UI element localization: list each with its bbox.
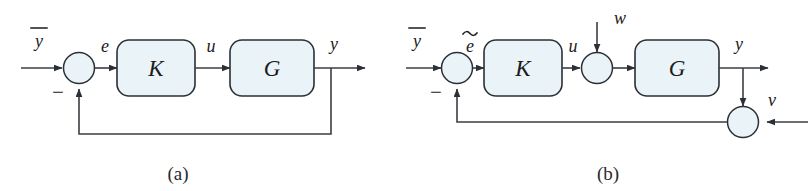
signal-label-output-b: y (733, 34, 743, 54)
figure-root: K G y e u y − (a) (0, 0, 812, 191)
caption-panel-b: (b) (597, 163, 619, 185)
signal-label-reference-b: y (411, 31, 421, 51)
junction-noise-sum-b (728, 107, 759, 138)
block-controller-label-a: K (147, 56, 165, 81)
signal-label-control-b: u (569, 36, 578, 56)
panel-b: K G y e (406, 8, 808, 185)
panel-a: K G y e u y − (a) (21, 28, 365, 185)
caption-panel-a: (a) (167, 163, 188, 185)
signal-label-output-a: y (328, 34, 338, 54)
signal-label-control-a: u (207, 36, 216, 56)
block-plant-label-b: G (669, 56, 686, 81)
signal-label-reference-a: y (33, 31, 43, 51)
junction-error-sum-a (64, 53, 95, 84)
signal-label-error-a: e (101, 36, 109, 56)
signal-label-disturbance-b: w (614, 8, 626, 28)
block-diagram-canvas: K G y e u y − (a) (0, 0, 812, 191)
error-tilde-b (463, 32, 477, 36)
block-controller-label-b: K (514, 56, 532, 81)
sign-label-negative-b: − (430, 80, 442, 104)
block-plant-label-a: G (264, 56, 281, 81)
signal-label-noise-b: v (768, 90, 776, 110)
junction-disturbance-sum-b (582, 53, 613, 84)
sign-label-negative-a: − (52, 80, 64, 104)
junction-error-sum-b (442, 53, 473, 84)
signal-label-error-b: e (466, 36, 474, 56)
